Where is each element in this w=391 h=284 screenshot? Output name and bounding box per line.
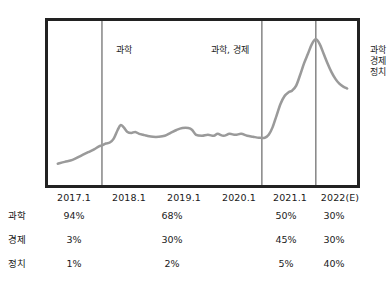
table-row-label-science: 과학	[8, 208, 52, 224]
x-tick-2021: 2021.1	[264, 191, 316, 205]
segment-annotation-3-line-1: 과학	[370, 45, 391, 56]
x-axis-tick-labels: 2017.1 2018.1 2019.1 2020.1 2021.1 2022(…	[0, 191, 376, 207]
table-cell-politics-2019: 2%	[148, 256, 196, 272]
segment-annotation-3-line-3: 정치	[370, 67, 391, 78]
x-tick-2018: 2018.1	[103, 191, 155, 205]
segment-annotation-2-line-1: 과학, 경제	[211, 45, 250, 55]
x-tick-2017: 2017.1	[48, 191, 100, 205]
x-tick-2019: 2019.1	[158, 191, 210, 205]
segment-annotation-3: 과학 경제 정치	[370, 45, 391, 78]
table-cell-economy-2022: 30%	[312, 232, 356, 248]
segment-annotation-1-line-1: 과학	[116, 45, 132, 55]
table-cell-economy-2019: 30%	[148, 232, 196, 248]
table-cell-politics-2022: 40%	[312, 256, 356, 272]
data-table: 과학 94% 68% 50% 30% 경제 3% 30% 45% 30% 정치 …	[0, 206, 376, 284]
table-cell-politics-2017: 1%	[50, 256, 98, 272]
table-cell-economy-2017: 3%	[50, 232, 98, 248]
x-tick-2022: 2022(E)	[312, 191, 368, 205]
x-tick-2020: 2020.1	[213, 191, 265, 205]
table-row: 정치 1% 2% 5% 40%	[0, 254, 376, 278]
segment-annotation-2: 과학, 경제	[188, 45, 272, 56]
segment-annotation-1: 과학	[103, 45, 145, 56]
table-cell-science-2022: 30%	[312, 208, 356, 224]
segment-annotation-3-line-2: 경제	[370, 56, 391, 67]
table-row-label-politics: 정치	[8, 256, 52, 272]
table-row-label-economy: 경제	[8, 232, 52, 248]
table-cell-politics-2021: 5%	[264, 256, 308, 272]
table-cell-economy-2021: 45%	[264, 232, 308, 248]
table-cell-science-2021: 50%	[264, 208, 308, 224]
table-cell-science-2019: 68%	[148, 208, 196, 224]
table-row: 경제 3% 30% 45% 30%	[0, 230, 376, 254]
table-row: 과학 94% 68% 50% 30%	[0, 206, 376, 230]
table-cell-science-2017: 94%	[50, 208, 98, 224]
chart-plot-area: 과학 과학, 경제 과학 경제 정치	[45, 18, 360, 188]
